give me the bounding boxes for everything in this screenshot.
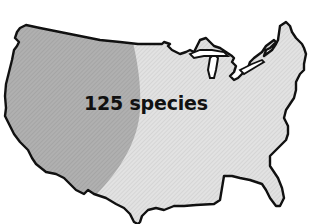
- species-range-map: 125 species: [0, 0, 327, 224]
- great-lake-superior: [190, 50, 228, 58]
- species-count-label: 125 species: [84, 92, 208, 114]
